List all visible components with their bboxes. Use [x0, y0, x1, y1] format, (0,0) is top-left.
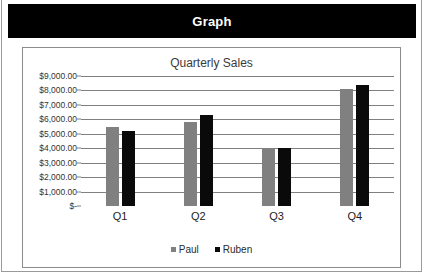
bar-paul-q3: [262, 148, 275, 206]
x-axis-label: Q1: [81, 210, 159, 222]
legend-swatch-icon: [171, 247, 176, 252]
bar-group: Q2: [159, 76, 237, 206]
y-axis-label: $6,000.00: [39, 115, 77, 124]
legend-item-ruben[interactable]: Ruben: [215, 244, 252, 255]
chart-panel: Quarterly Sales $-$1,000.00$2,000.00$3,0…: [22, 47, 401, 268]
x-axis-label: Q4: [316, 210, 394, 222]
legend-item-paul[interactable]: Paul: [171, 244, 199, 255]
legend-label: Ruben: [223, 244, 252, 255]
bar-ruben-q4: [356, 85, 369, 206]
y-axis-label: $5,000.00: [39, 130, 77, 139]
x-axis-label: Q3: [238, 210, 316, 222]
y-axis-label: $1,000.00: [39, 187, 77, 196]
legend-label: Paul: [179, 244, 199, 255]
bar-group: Q3: [238, 76, 316, 206]
y-axis-label: $9,000.00: [39, 72, 77, 81]
screenshot-root: Graph Quarterly Sales $-$1,000.00$2,000.…: [0, 0, 424, 279]
bar-paul-q2: [184, 122, 197, 206]
chart-title: Quarterly Sales: [23, 56, 400, 70]
plot-area: $-$1,000.00$2,000.00$3,000.00$4,000.00$5…: [81, 76, 394, 206]
bar-ruben-q2: [200, 115, 213, 206]
y-axis-label: $3,000.00: [39, 158, 77, 167]
y-axis-label: $2,000.00: [39, 173, 77, 182]
x-axis-label: Q2: [159, 210, 237, 222]
chart-legend: PaulRuben: [23, 244, 400, 255]
y-axis-label: $8,000.00: [39, 86, 77, 95]
bar-group: Q4: [316, 76, 394, 206]
header-band: Graph: [8, 4, 416, 38]
bar-ruben-q1: [122, 131, 135, 206]
bar-ruben-q3: [278, 148, 291, 206]
y-axis-label: $7,000.00: [39, 101, 77, 110]
bar-paul-q1: [106, 127, 119, 206]
page-title: Graph: [192, 14, 231, 29]
y-axis-label: $4,000.00: [39, 144, 77, 153]
legend-swatch-icon: [215, 247, 220, 252]
bar-group: Q1: [81, 76, 159, 206]
y-axis-label: $-: [69, 202, 77, 211]
bar-paul-q4: [340, 89, 353, 206]
